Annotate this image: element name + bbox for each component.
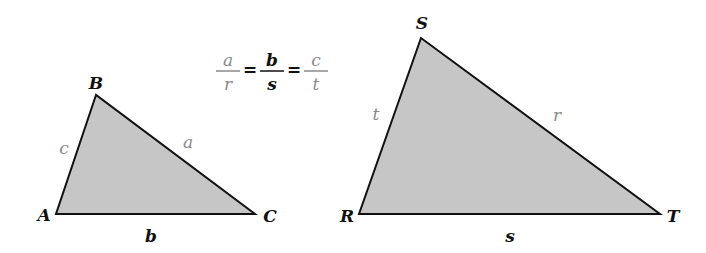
triangle-rst: S R T t r s <box>339 13 681 246</box>
formula-t: t <box>313 74 320 94</box>
formula-s: s <box>266 74 277 94</box>
vertex-r-label: R <box>339 206 354 226</box>
vertex-b-label: B <box>88 73 103 93</box>
triangle-abc-shape <box>56 95 255 214</box>
side-b-label: b <box>145 226 157 246</box>
vertex-c-label: C <box>263 206 277 226</box>
equals-1: = <box>243 60 257 80</box>
triangle-rst-shape <box>359 38 660 214</box>
triangle-abc: A B C c a b <box>35 73 277 246</box>
equals-2: = <box>287 60 301 80</box>
side-s-label: s <box>504 226 515 246</box>
proportion-formula: a r = b s = c t <box>216 50 328 94</box>
formula-b: b <box>266 50 278 70</box>
side-a-label: a <box>183 132 193 152</box>
side-c-label: c <box>59 138 69 158</box>
vertex-a-label: A <box>35 205 50 225</box>
diagram-canvas: a r = b s = c t A B C c a b S R T t r s <box>0 0 706 253</box>
formula-c: c <box>311 50 321 70</box>
vertex-s-label: S <box>416 13 428 33</box>
side-r-label: r <box>553 105 562 125</box>
similar-triangles-diagram: a r = b s = c t A B C c a b S R T t r s <box>0 0 706 253</box>
formula-a: a <box>223 50 233 70</box>
formula-r: r <box>224 74 233 94</box>
vertex-t-label: T <box>667 206 681 226</box>
side-t-label: t <box>373 104 380 124</box>
